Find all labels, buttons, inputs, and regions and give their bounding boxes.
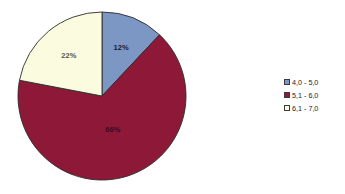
legend-item-1[interactable]: 5,1 - 6,0 <box>284 89 344 101</box>
legend-item-label: 5,1 - 6,0 <box>292 91 318 100</box>
pie-plot-area: 12%66%22% <box>0 0 230 194</box>
legend-swatch-icon <box>284 92 290 98</box>
legend-item-0[interactable]: 4,0 - 5,0 <box>284 76 344 88</box>
pie-slice-label: 22% <box>61 51 77 60</box>
pie-chart-figure: 12%66%22% 4,0 - 5,0 5,1 - 6,0 6,1 - 7,0 <box>0 0 345 194</box>
chart-legend: 4,0 - 5,0 5,1 - 6,0 6,1 - 7,0 <box>284 76 344 115</box>
pie-slice-label: 12% <box>114 43 130 52</box>
legend-swatch-icon <box>284 79 290 85</box>
legend-item-2[interactable]: 6,1 - 7,0 <box>284 102 344 114</box>
legend-item-label: 6,1 - 7,0 <box>292 104 318 113</box>
pie-slice-label: 66% <box>105 125 121 134</box>
legend-item-label: 4,0 - 5,0 <box>292 78 318 87</box>
legend-swatch-icon <box>284 105 290 111</box>
pie-svg: 12%66%22% <box>0 0 230 194</box>
